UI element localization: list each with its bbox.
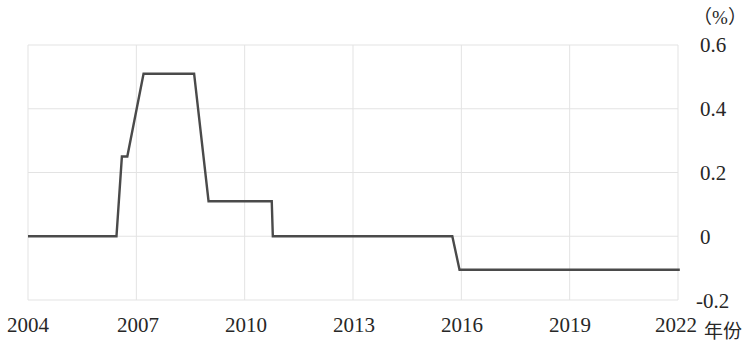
x-tick-label-2019: 2019 (542, 313, 598, 338)
line-chart-plot (0, 0, 750, 354)
x-tick-label-2013: 2013 (326, 313, 382, 338)
y-axis-unit-label: （%） (693, 2, 747, 29)
series-lines (28, 74, 680, 270)
x-tick-label-2004: 2004 (0, 313, 56, 338)
x-tick-label-2016: 2016 (434, 313, 490, 338)
x-axis-title: 年份 (704, 316, 742, 343)
series-line-0 (28, 74, 680, 270)
x-tick-label-2022: 2022 (648, 313, 704, 338)
y-tick-label-4: -0.2 (696, 289, 729, 314)
y-tick-label-0: 0.6 (700, 33, 726, 58)
x-tick-label-2007: 2007 (110, 313, 166, 338)
chart-container: （%） 0.6 0.4 0.2 0 -0.2 2004 2007 2010 20… (0, 0, 750, 354)
grid-lines (28, 45, 678, 300)
y-tick-label-1: 0.4 (700, 97, 726, 122)
y-tick-label-3: 0 (700, 225, 711, 250)
x-tick-label-2010: 2010 (218, 313, 274, 338)
y-tick-label-2: 0.2 (700, 161, 726, 186)
